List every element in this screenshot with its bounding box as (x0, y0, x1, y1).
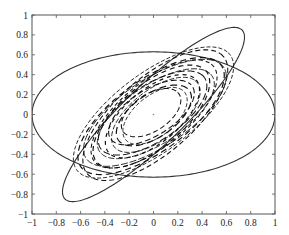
y-tick-label: 0.8 (16, 30, 28, 40)
x-tick-label: 1 (273, 218, 278, 228)
x-axis-ticks: −1−0.8−0.6−0.4−0.200.20.40.60.81 (27, 15, 278, 228)
y-tick-label: −0.2 (11, 130, 28, 140)
y-tick-label: −0.8 (11, 190, 28, 200)
x-tick-label: −0.8 (48, 218, 65, 228)
center-point (153, 114, 155, 116)
x-tick-label: 0 (151, 218, 156, 228)
x-tick-label: −0.2 (121, 218, 138, 228)
x-tick-label: −1 (27, 218, 37, 228)
x-tick-label: −0.4 (96, 218, 113, 228)
y-tick-label: 0.6 (16, 50, 28, 60)
dashed-trajectories (73, 47, 233, 181)
y-tick-label: 1 (23, 11, 28, 21)
y-axis-ticks: 10.80.60.40.20−0.2−0.4−0.6−0.8−1 (11, 11, 275, 220)
x-tick-label: 0.2 (172, 218, 184, 228)
y-tick-label: 0 (23, 110, 28, 120)
y-tick-label: 0.4 (16, 70, 28, 80)
y-tick-label: −1 (18, 210, 28, 220)
y-tick-label: −0.6 (11, 170, 28, 180)
y-tick-label: 0.2 (16, 90, 28, 100)
x-tick-label: 0.6 (220, 218, 232, 228)
y-tick-label: −0.4 (11, 150, 28, 160)
x-tick-label: −0.6 (72, 218, 89, 228)
x-tick-label: 0.8 (245, 218, 257, 228)
plot-area (32, 27, 275, 201)
x-tick-label: 0.4 (196, 218, 208, 228)
chart: −1−0.8−0.6−0.4−0.200.20.40.60.81 10.80.6… (0, 0, 289, 235)
